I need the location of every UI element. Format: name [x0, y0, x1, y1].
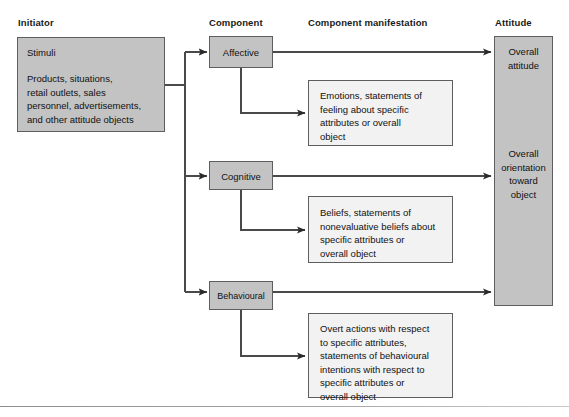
manifestation-box-cognitive: Beliefs, statements of nonevaluative bel… — [308, 196, 453, 263]
attitude-overall-attitude-label: Overall attitude — [495, 45, 552, 72]
manifestation-box-affective: Emotions, statements of feeling about sp… — [308, 80, 453, 146]
column-header-component: Component — [209, 17, 263, 28]
column-header-attitude: Attitude — [495, 17, 532, 28]
attitude-overall-orientation-label: Overall orientation toward object — [495, 147, 552, 201]
manifestation-text-cognitive: Beliefs, statements of nonevaluative bel… — [320, 206, 435, 260]
manifestation-text-affective: Emotions, statements of feeling about sp… — [320, 89, 422, 143]
component-label-cognitive: Cognitive — [210, 170, 272, 183]
column-header-initiator: Initiator — [18, 17, 54, 28]
attitude-box: Overall attitude Overall orientation tow… — [494, 36, 553, 306]
manifestation-box-behavioural: Overt actions with respect to specific a… — [308, 313, 453, 398]
manifestation-text-behavioural: Overt actions with respect to specific a… — [320, 322, 429, 403]
stimuli-body-text: Products, situations, retail outlets, sa… — [27, 72, 141, 126]
component-label-affective: Affective — [210, 46, 272, 59]
scan-artifact — [52, 0, 92, 2]
page-divider-rule — [0, 406, 569, 407]
component-box-behavioural: Behavioural — [209, 281, 273, 310]
column-header-component-manifestation: Component manifestation — [308, 17, 427, 28]
component-box-affective: Affective — [209, 36, 273, 68]
component-box-cognitive: Cognitive — [209, 161, 273, 190]
stimuli-title: Stimuli — [27, 46, 56, 60]
component-label-behavioural: Behavioural — [210, 290, 272, 303]
diagram-canvas: Initiator Component Component manifestat… — [0, 0, 569, 417]
